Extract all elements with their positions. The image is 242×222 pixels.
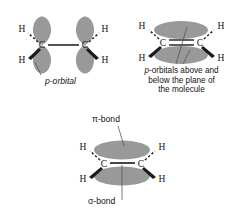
atom-label-hydrogen-upper-left: H	[19, 24, 26, 34]
caption-line-1-rest: -orbitals above and	[149, 66, 219, 75]
atom-label-hydrogen-lower-left: H	[80, 174, 87, 184]
atom-label-hydrogen-upper-right: H	[218, 21, 225, 31]
atom-label-hydrogen-lower-right: H	[218, 53, 225, 63]
atom-label-hydrogen-lower-right: H	[159, 174, 166, 184]
caption-line-1: p-orbitals above and	[127, 66, 236, 76]
atom-label-carbon-left: C	[101, 159, 107, 169]
panel-p-orbitals-plane: C C H H H H p-orbitals above and below t…	[121, 0, 242, 112]
atom-label-carbon-left: C	[160, 38, 166, 48]
caption-p-orbital: p-orbital	[0, 76, 121, 86]
pi-lobe-upper	[154, 21, 208, 39]
panel-p-orbital: C C H H H H p-orbital	[0, 0, 121, 104]
atom-label-carbon-right: C	[197, 38, 203, 48]
atom-label-hydrogen-upper-left: H	[139, 21, 146, 31]
atom-label-hydrogen-upper-left: H	[80, 142, 87, 152]
atom-label-carbon-right: C	[82, 40, 88, 50]
atom-label-hydrogen-lower-left: H	[19, 55, 26, 65]
pi-lobe-upper	[94, 141, 150, 160]
caption-line-3: the molecule	[127, 85, 236, 95]
atom-label-hydrogen-lower-right: H	[102, 55, 109, 65]
atom-label-carbon-right: C	[138, 159, 144, 169]
atom-label-carbon-left: C	[39, 40, 45, 50]
pi-sigma-figure: C C H H H H	[58, 112, 186, 222]
caption-p-orbitals-plane: p-orbitals above and below the plane of …	[121, 66, 242, 95]
label-sigma-bond: σ-bond	[88, 196, 115, 206]
pi-lobe-lower	[154, 46, 208, 64]
p-orbitals-plane-figure: C C H H H H	[121, 0, 242, 112]
atom-label-hydrogen-upper-right: H	[102, 24, 109, 34]
p-orbital-figure: C C H H H H	[0, 0, 121, 104]
atom-label-hydrogen-upper-right: H	[159, 142, 166, 152]
panel-pi-sigma: C C H H H H π-bond σ-bond	[58, 112, 186, 222]
atom-label-hydrogen-lower-left: H	[139, 53, 146, 63]
label-pi-bond: π-bond	[92, 114, 120, 124]
caption-line-2: below the plane of	[127, 76, 236, 86]
